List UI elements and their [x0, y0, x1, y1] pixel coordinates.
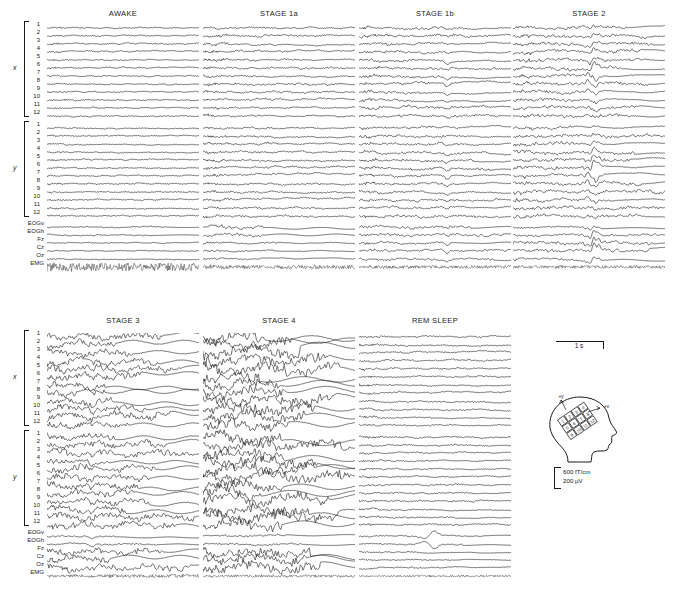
- channel-label-y-12: 12: [33, 518, 40, 524]
- channel-label-x-10: 10: [33, 93, 40, 99]
- trace-panel-stage3: [47, 333, 199, 598]
- channel-group-label-x: x: [13, 64, 17, 71]
- channel-label-x-12: 12: [33, 109, 40, 115]
- channel-label-y-2: 2: [37, 129, 40, 135]
- channel-label-x-2: 2: [37, 338, 40, 344]
- channel-label-eogv: EOGv: [28, 529, 44, 535]
- head-sensor-array-diagram: 123456789101112+y+x: [528, 388, 636, 466]
- channel-label-y-10: 10: [33, 193, 40, 199]
- amplitude-scale-label-1: 200 µV: [563, 477, 583, 484]
- channel-label-cz: Cz: [37, 553, 44, 559]
- channel-label-y-3: 3: [37, 446, 40, 452]
- trace-panel-awake: [47, 24, 199, 289]
- channel-group-label-y: y: [13, 164, 17, 171]
- channel-label-y-7: 7: [37, 478, 40, 484]
- channel-label-y-4: 4: [37, 145, 40, 151]
- panel-title-rem: REM SLEEP: [359, 316, 511, 325]
- channel-label-x-1: 1: [37, 21, 40, 27]
- channel-group-bracket-x: [24, 21, 29, 117]
- axis-label-plus-x: +x: [604, 404, 610, 409]
- channel-label-x-9: 9: [37, 394, 40, 400]
- amplitude-scale-label-0: 600 fT/cm: [563, 468, 591, 475]
- channel-label-y-9: 9: [37, 185, 40, 191]
- channel-label-oz: Oz: [36, 252, 44, 258]
- channel-group-bracket-y: [24, 430, 29, 526]
- channel-label-y-1: 1: [37, 121, 40, 127]
- channel-label-fz: Fz: [37, 236, 44, 242]
- channel-label-x-4: 4: [37, 45, 40, 51]
- channel-label-y-8: 8: [37, 177, 40, 183]
- sensor-cell-9: 9: [570, 432, 575, 438]
- trace-panel-stage4: [203, 333, 355, 598]
- channel-label-y-1: 1: [37, 430, 40, 436]
- channel-label-x-11: 11: [34, 101, 40, 107]
- channel-label-y-11: 11: [34, 201, 40, 207]
- channel-label-emg: EMG: [30, 260, 44, 266]
- channel-label-x-8: 8: [37, 77, 40, 83]
- channel-label-y-6: 6: [37, 470, 40, 476]
- channel-label-x-1: 1: [37, 330, 40, 336]
- channel-label-x-5: 5: [37, 362, 40, 368]
- channel-label-x-10: 10: [33, 402, 40, 408]
- trace-panel-rem: [359, 333, 511, 598]
- channel-label-x-9: 9: [37, 85, 40, 91]
- channel-label-y-9: 9: [37, 494, 40, 500]
- channel-label-x-4: 4: [37, 354, 40, 360]
- time-scale-bar: 1 s: [556, 341, 602, 353]
- channel-label-x-12: 12: [33, 418, 40, 424]
- panel-title-stage3: STAGE 3: [47, 316, 199, 325]
- channel-group-bracket-x: [24, 330, 29, 426]
- channel-label-y-3: 3: [37, 137, 40, 143]
- panel-title-stage2: STAGE 2: [513, 9, 665, 18]
- channel-label-x-6: 6: [37, 61, 40, 67]
- sensor-cell-1: 1: [560, 418, 565, 424]
- channel-label-eogh: EOGh: [27, 228, 44, 234]
- channel-label-oz: Oz: [36, 561, 44, 567]
- panel-title-stage4: STAGE 4: [203, 316, 355, 325]
- channel-label-x-3: 3: [37, 37, 40, 43]
- sensor-cell-6: 6: [572, 421, 577, 427]
- channel-label-eogh: EOGh: [27, 537, 44, 543]
- channel-label-x-3: 3: [37, 346, 40, 352]
- sensor-cell-2: 2: [567, 414, 572, 420]
- channel-label-x-5: 5: [37, 53, 40, 59]
- channel-label-x-8: 8: [37, 386, 40, 392]
- sensor-cell-4: 4: [581, 405, 586, 411]
- channel-label-y-5: 5: [37, 462, 40, 468]
- channel-label-x-7: 7: [37, 69, 40, 75]
- channel-label-emg: EMG: [30, 569, 44, 575]
- sensor-cell-7: 7: [579, 416, 584, 422]
- channel-group-label-x: x: [13, 373, 17, 380]
- channel-label-y-4: 4: [37, 454, 40, 460]
- channel-label-x-2: 2: [37, 29, 40, 35]
- trace-panel-stage2: [513, 24, 665, 289]
- axis-label-plus-y: +y: [558, 394, 564, 399]
- channel-label-eogv: EOGv: [28, 220, 44, 226]
- sensor-cell-5: 5: [565, 425, 570, 431]
- channel-label-fz: Fz: [37, 545, 44, 551]
- amplitude-scale-bar: 600 fT/cm200 µV: [554, 467, 624, 491]
- channel-label-x-6: 6: [37, 370, 40, 376]
- channel-label-y-11: 11: [34, 510, 40, 516]
- channel-label-y-12: 12: [33, 209, 40, 215]
- time-scale-label: 1 s: [556, 342, 602, 349]
- panel-title-stage1a: STAGE 1a: [203, 9, 355, 18]
- channel-label-y-5: 5: [37, 153, 40, 159]
- amplitude-scale-bracket: [554, 467, 561, 489]
- channel-label-x-7: 7: [37, 378, 40, 384]
- panel-title-stage1b: STAGE 1b: [359, 9, 511, 18]
- channel-label-y-7: 7: [37, 169, 40, 175]
- panel-title-awake: AWAKE: [47, 9, 199, 18]
- channel-label-y-8: 8: [37, 486, 40, 492]
- channel-group-label-y: y: [13, 473, 17, 480]
- sleep-stage-figure: 123456789101112x123456789101112yEOGvEOGh…: [0, 0, 676, 599]
- sensor-cell-3: 3: [574, 409, 579, 415]
- trace-panel-stage1b: [359, 24, 511, 289]
- channel-label-y-10: 10: [33, 502, 40, 508]
- channel-label-cz: Cz: [37, 244, 44, 250]
- channel-label-y-6: 6: [37, 161, 40, 167]
- channel-group-bracket-y: [24, 121, 29, 217]
- channel-label-y-2: 2: [37, 438, 40, 444]
- trace-panel-stage1a: [203, 24, 355, 289]
- channel-label-x-11: 11: [34, 410, 40, 416]
